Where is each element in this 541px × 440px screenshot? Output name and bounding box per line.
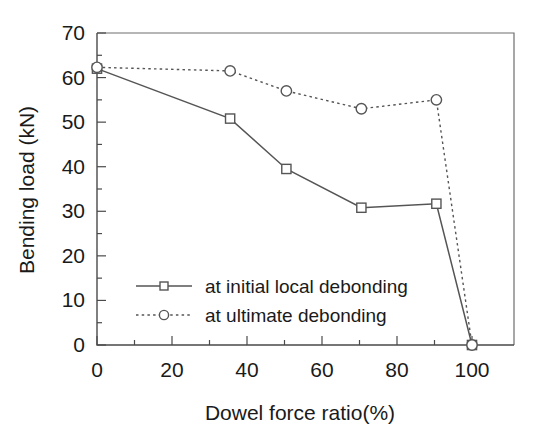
legend-square-marker xyxy=(160,282,168,290)
axis-left-bottom xyxy=(97,33,514,345)
data-point-circle xyxy=(92,62,102,72)
y-tick-label: 50 xyxy=(62,110,85,133)
series-line xyxy=(97,69,472,345)
x-tick-labels: 020406080100 xyxy=(91,358,489,381)
data-point-square xyxy=(432,199,441,208)
x-axis-title: Dowel force ratio(%) xyxy=(205,401,395,424)
y-tick-label: 10 xyxy=(62,288,85,311)
data-point-square xyxy=(282,164,291,173)
data-point-circle xyxy=(431,95,441,105)
data-point-square xyxy=(357,203,366,212)
data-point-circle xyxy=(356,104,366,114)
legend-entry-initial-local-debonding: at initial local debonding xyxy=(136,276,408,297)
y-axis-ticks xyxy=(97,33,106,345)
y-tick-label: 40 xyxy=(62,155,85,178)
legend-entry-ultimate-debonding: at ultimate debonding xyxy=(136,305,387,326)
series-line xyxy=(97,67,472,345)
y-tick-labels: 010203040506070 xyxy=(62,21,85,356)
legend-circle-marker xyxy=(159,310,168,319)
x-tick-label: 80 xyxy=(385,358,408,381)
y-axis-title: Bending load (kN) xyxy=(15,106,38,274)
chart-legend: at initial local debonding at ultimate d… xyxy=(136,276,408,326)
x-tick-label: 0 xyxy=(91,358,103,381)
legend-label-ultimate: at ultimate debonding xyxy=(205,305,387,326)
y-tick-label: 70 xyxy=(62,21,85,44)
plot-frame xyxy=(97,33,514,345)
legend-label-initial: at initial local debonding xyxy=(205,276,408,297)
y-tick-label: 60 xyxy=(62,66,85,89)
chart-figure: 010203040506070 020406080100 Bending loa… xyxy=(0,0,541,440)
y-tick-label: 20 xyxy=(62,244,85,267)
x-tick-label: 100 xyxy=(454,358,489,381)
data-point-circle xyxy=(467,340,477,350)
x-axis-ticks xyxy=(97,336,472,345)
line-chart: 010203040506070 020406080100 Bending loa… xyxy=(0,0,541,440)
frame-top-right xyxy=(97,33,514,345)
data-point-circle xyxy=(281,86,291,96)
y-tick-label: 30 xyxy=(62,199,85,222)
y-tick-label: 0 xyxy=(73,333,85,356)
data-point-circle xyxy=(225,66,235,76)
x-tick-label: 20 xyxy=(160,358,183,381)
x-tick-label: 60 xyxy=(310,358,333,381)
x-tick-label: 40 xyxy=(235,358,258,381)
data-point-square xyxy=(226,114,235,123)
